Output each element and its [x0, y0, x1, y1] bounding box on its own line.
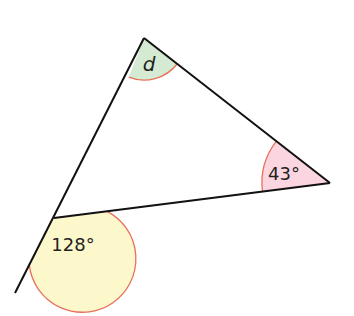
angle-d-label: d — [143, 52, 156, 76]
triangle-diagram: d 43° 128° — [0, 0, 354, 316]
edge-top-right — [144, 38, 330, 183]
edge-right-left — [54, 183, 330, 218]
angle-43-label: 43° — [268, 163, 300, 184]
angle-128-label: 128° — [51, 234, 94, 255]
